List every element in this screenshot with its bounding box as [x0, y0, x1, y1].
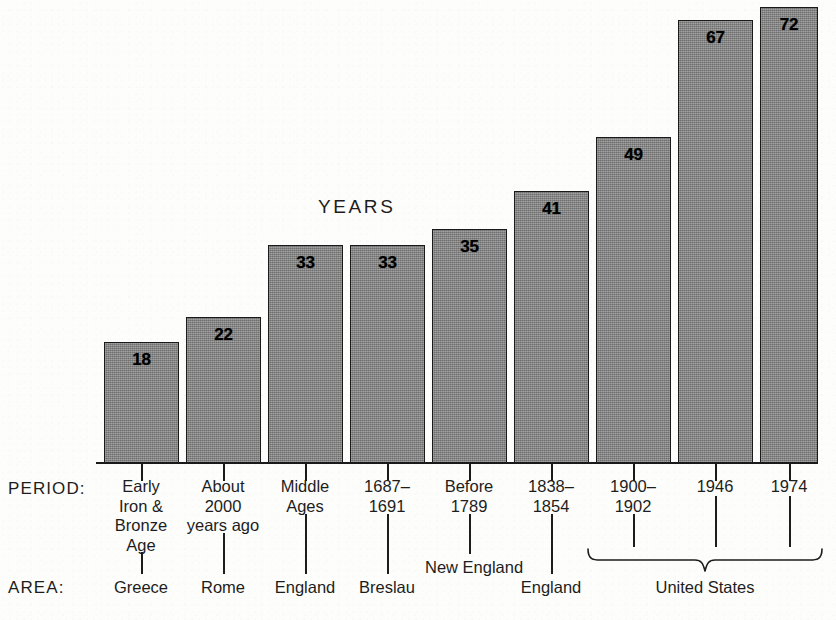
- area-label: Greece: [101, 578, 181, 597]
- bar-5: 35: [432, 229, 507, 463]
- group-brace-icon: [586, 547, 824, 573]
- bar-value-5: 35: [433, 237, 506, 257]
- period-cell-8: 1946: [673, 477, 757, 497]
- connector-2: [223, 533, 225, 574]
- bar-6: 41: [514, 191, 589, 463]
- period-line: Early: [101, 477, 181, 497]
- connector-1: [141, 552, 143, 574]
- connector-9: [789, 496, 791, 547]
- chart-title: YEARS: [318, 196, 395, 218]
- period-line: 1900–: [591, 477, 675, 497]
- period-line: 1838–: [509, 477, 593, 497]
- bar-value-3: 33: [269, 253, 342, 273]
- bar-value-9: 72: [761, 15, 817, 35]
- bar-9: 72: [760, 7, 818, 463]
- period-line: Middle: [263, 477, 347, 497]
- period-cell-6: 1838– 1854: [509, 477, 593, 516]
- period-line: 1974: [747, 477, 831, 497]
- area-cell-2: Rome: [183, 578, 263, 597]
- connector-7: [633, 514, 635, 547]
- bar-8: 67: [678, 20, 753, 463]
- area-cell-5: New England: [425, 558, 513, 577]
- bar-chart-figure: YEARS 18 22 33 33 35 41 49 67 72: [0, 0, 836, 620]
- bar-7: 49: [596, 137, 671, 463]
- connector-8: [715, 496, 717, 547]
- bar-4: 33: [350, 245, 425, 463]
- period-cell-4: 1687– 1691: [345, 477, 429, 516]
- bar-value-4: 33: [351, 253, 424, 273]
- connector-5: [469, 514, 471, 554]
- period-line: 2000: [177, 497, 269, 517]
- group-label: United States: [586, 578, 824, 597]
- connector-3: [305, 514, 307, 574]
- period-row-label: PERIOD:: [8, 479, 86, 499]
- bar-3: 33: [268, 245, 343, 463]
- area-cell-3: England: [261, 578, 349, 597]
- area-label: Breslau: [343, 578, 431, 597]
- period-line: About: [177, 477, 269, 497]
- bar-value-7: 49: [597, 145, 670, 165]
- bar-1: 18: [104, 342, 179, 463]
- area-label: Rome: [183, 578, 263, 597]
- area-label: New England: [425, 558, 513, 577]
- period-line: Bronze: [101, 516, 181, 536]
- connector-4: [387, 514, 389, 574]
- bar-value-2: 22: [187, 325, 260, 345]
- period-line: 1946: [673, 477, 757, 497]
- area-label: England: [261, 578, 349, 597]
- axis-baseline: [96, 462, 818, 464]
- period-cell-3: Middle Ages: [263, 477, 347, 516]
- area-label: England: [507, 578, 595, 597]
- period-cell-7: 1900– 1902: [591, 477, 675, 516]
- area-cell-6: England: [507, 578, 595, 597]
- plot-area: YEARS 18 22 33 33 35 41 49 67 72: [0, 0, 836, 470]
- bar-value-6: 41: [515, 199, 588, 219]
- period-line: Before: [427, 477, 511, 497]
- period-cell-5: Before 1789: [427, 477, 511, 516]
- period-cell-2: About 2000 years ago: [177, 477, 269, 536]
- bar-value-1: 18: [105, 350, 178, 370]
- connector-6: [551, 514, 553, 574]
- area-row-label: AREA:: [8, 578, 65, 598]
- period-cell-9: 1974: [747, 477, 831, 497]
- period-line: Iron &: [101, 497, 181, 517]
- area-cell-4: Breslau: [343, 578, 431, 597]
- bar-2: 22: [186, 317, 261, 463]
- area-cell-1: Greece: [101, 578, 181, 597]
- period-line: 1687–: [345, 477, 429, 497]
- bar-value-8: 67: [679, 28, 752, 48]
- period-cell-1: Early Iron & Bronze Age: [101, 477, 181, 555]
